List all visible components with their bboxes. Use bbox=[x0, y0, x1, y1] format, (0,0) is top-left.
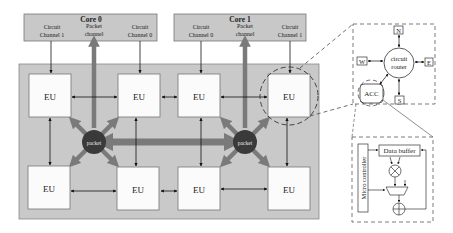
data-buffer-label: Data buffer bbox=[384, 147, 417, 155]
core-0-middle-label-1: Packet bbox=[86, 23, 102, 29]
core-1-right-label-1: Circuit bbox=[282, 24, 299, 30]
eu-row1-col3: EU bbox=[178, 74, 220, 117]
east-port-label: E bbox=[427, 59, 431, 66]
eu-row2-col1: EU bbox=[28, 166, 70, 209]
eu-label: EU bbox=[193, 92, 205, 102]
core-1-block: Core 1 Circuit Channel 0 Packet channel … bbox=[174, 14, 306, 41]
core-1-left-label-1: Circuit bbox=[193, 24, 210, 30]
packet-node-0: packet bbox=[82, 130, 106, 154]
eu-row1-col2: EU bbox=[118, 74, 160, 117]
south-port-label: S bbox=[398, 97, 402, 104]
core-0-block: Core 0 Circuit Channel 1 Packet channel … bbox=[24, 14, 157, 41]
core-0-middle-label-2: channel bbox=[85, 31, 104, 37]
north-port-label: N bbox=[396, 27, 401, 34]
zoom-callout-line-top bbox=[300, 24, 353, 68]
eu-label: EU bbox=[132, 185, 144, 195]
packet-label: packet bbox=[238, 140, 253, 146]
core-1-middle-label-2: channel bbox=[236, 31, 255, 37]
packet-node-1: packet bbox=[233, 130, 257, 154]
eu-row2-col2: EU bbox=[117, 167, 159, 210]
router-label-2: router bbox=[391, 63, 407, 70]
acc-callout-line-left bbox=[352, 104, 356, 137]
router-label-1: circuit bbox=[391, 55, 408, 62]
eu-label: EU bbox=[43, 184, 55, 194]
west-port-label: W bbox=[359, 58, 366, 65]
mux-unit bbox=[386, 187, 408, 195]
core-1-middle-label-1: Packet bbox=[237, 23, 253, 29]
core-0-left-label-1: Circuit bbox=[44, 24, 61, 30]
core-0-left-label-2: Channel 1 bbox=[40, 32, 65, 38]
core-0-right-label-2: Channel 0 bbox=[128, 32, 153, 38]
eu-label: EU bbox=[193, 185, 205, 195]
eu-row2-col4: EU bbox=[268, 167, 310, 210]
core-1-left-label-2: Channel 0 bbox=[189, 32, 214, 38]
packet-label: packet bbox=[87, 140, 102, 146]
eu-row1-col1: EU bbox=[29, 74, 71, 117]
eu-label: EU bbox=[133, 92, 145, 102]
eu-row2-col3: EU bbox=[178, 167, 220, 210]
eu-label: EU bbox=[283, 185, 295, 195]
architecture-diagram: Core 0 Circuit Channel 1 Packet channel … bbox=[0, 0, 453, 233]
eu-label: EU bbox=[44, 92, 56, 102]
eu-label: EU bbox=[283, 92, 295, 102]
micro-controller-label: Micro controller bbox=[360, 156, 367, 200]
accelerator-detail-panel: Micro controller Data buffer bbox=[352, 137, 433, 222]
core-1-right-label-2: Channel 1 bbox=[278, 32, 303, 38]
router-detail-panel: circuit router N W E S ACC bbox=[353, 24, 435, 106]
acc-label: ACC bbox=[364, 90, 379, 98]
core-0-right-label-1: Circuit bbox=[132, 24, 149, 30]
acc-callout-line-right bbox=[383, 100, 433, 137]
eu-row1-col4: EU bbox=[268, 74, 310, 117]
